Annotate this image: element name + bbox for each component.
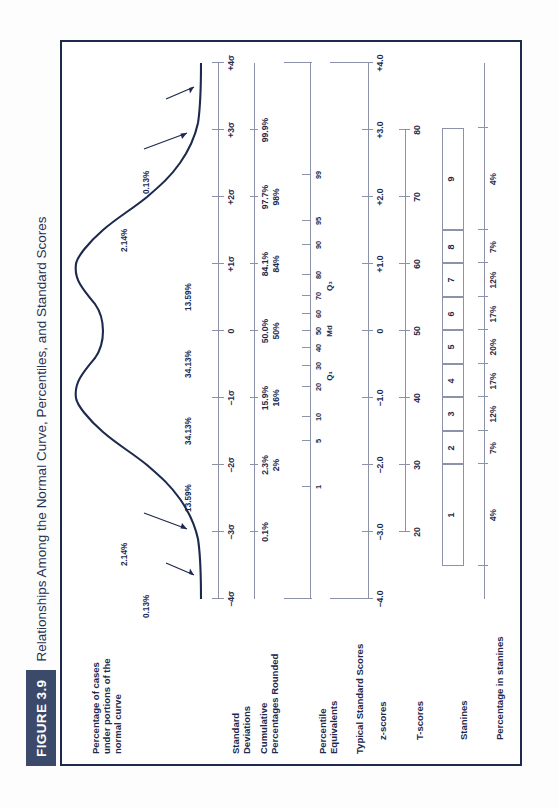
pctile-tick-5 (302, 440, 311, 441)
pctile-label-95: 95 (314, 217, 323, 225)
stanine-pct-tick-6 (478, 296, 488, 297)
row-label-line-1: Percentage of cases (90, 604, 101, 754)
percentile-axis-line (310, 63, 311, 599)
z-tick-1 (362, 263, 373, 264)
sd-tick-4 (212, 62, 224, 63)
stanine-pct-tick-2 (478, 430, 488, 431)
stanine-pct-7: 12% (488, 272, 498, 289)
z-tick-2 (362, 196, 373, 197)
stanine-pct-tick-7 (478, 262, 488, 263)
figure-number-badge: FIGURE 3.9 (26, 670, 56, 766)
stanine-pct-tick-1 (478, 463, 488, 464)
tscore-axis-line (405, 130, 406, 532)
t-tick-30 (399, 464, 410, 465)
stanine-number-6: 6 (446, 311, 456, 316)
z-tick-0 (362, 330, 373, 331)
stanine-pct-6: 17% (488, 306, 498, 323)
pctile-label-40: 40 (314, 344, 323, 352)
pctile-label-1: 1 (314, 485, 323, 489)
z-label--3: −3.0 (375, 524, 385, 541)
stanine-pct-3: 12% (488, 406, 498, 423)
pctile-label-60: 60 (314, 310, 323, 318)
sd-tick-3 (212, 129, 224, 130)
row-label-standard-deviations: Standard Deviations (230, 604, 252, 754)
row-label-typical-standard-scores: Typical Standard Scores (354, 604, 365, 754)
stanine-number-3: 3 (446, 411, 456, 416)
t-label-70: 70 (412, 192, 422, 202)
sd-label--3: −3σ (226, 524, 236, 540)
sd-tick-2 (212, 196, 224, 197)
figure-page: FIGURE 3.9 Relationships Among the Norma… (0, 0, 559, 808)
area-pct-3-to-4: 0.13% (142, 171, 151, 194)
row-label-line-1: Standard (230, 604, 241, 754)
sd-tick-0 (212, 330, 224, 331)
figure-rotated-container: FIGURE 3.9 Relationships Among the Norma… (20, 24, 540, 784)
row-label-line-2: Deviations (241, 604, 252, 754)
cum-exact-3: 99.9% (260, 118, 270, 142)
z-label--1: −1.0 (375, 390, 385, 407)
stanine-pct-9: 4% (488, 173, 498, 185)
sd-label-3: +3σ (226, 122, 236, 138)
pctile-tick-10 (302, 416, 311, 417)
row-label-z-scores: z-scores (377, 590, 388, 740)
stanine-number-7: 7 (446, 277, 456, 282)
cum-rounded--1: 16% (271, 389, 281, 406)
z-label-1: +1.0 (375, 256, 385, 273)
sd-tick--2 (212, 464, 224, 465)
zscore-left-connector (330, 598, 370, 599)
t-tick-20 (399, 531, 410, 532)
stanine-number-5: 5 (446, 344, 456, 349)
cum-exact-1: 84.1% (260, 252, 270, 276)
t-label-40: 40 (412, 393, 422, 403)
stanine-number-9: 9 (446, 176, 456, 181)
stanine-number-2: 2 (446, 445, 456, 450)
pctile-tick-50 (302, 330, 311, 331)
pctile-tick-70 (302, 295, 311, 296)
zscore-right-connector (330, 62, 370, 63)
stanine-pct-4: 17% (488, 373, 498, 390)
pctile-label-20: 20 (314, 383, 323, 391)
pctile-marker-q1: Q₁ (325, 371, 334, 381)
area-pct--3-to--2: 2.14% (120, 543, 129, 566)
pctile-label-5: 5 (314, 439, 323, 443)
pctile-label-30: 30 (314, 362, 323, 370)
row-label-stanines: Stanines (458, 590, 469, 740)
sd-label-0: 0 (226, 329, 236, 334)
cum-tick-3 (250, 129, 258, 130)
cum-exact--1: 15.9% (260, 386, 270, 410)
cum-rounded-1: 84% (271, 255, 281, 272)
t-label-50: 50 (412, 326, 422, 336)
row-label-t-scores: T-scores (414, 590, 425, 740)
cum-tick--2 (250, 464, 258, 465)
sd-label--1: −1σ (226, 390, 236, 406)
pctile-marker-q3: Q₃ (325, 281, 334, 291)
stanine-pct-2: 7% (488, 442, 498, 454)
pctile-tick-60 (302, 313, 311, 314)
cum-exact--3: 0.1% (260, 522, 270, 542)
row-label-cumulative-percentages: Cumulative Percentages Rounded (258, 604, 280, 754)
pctile-label-90: 90 (314, 241, 323, 249)
stanine-number-4: 4 (446, 378, 456, 383)
pctile-tick-40 (302, 347, 311, 348)
stanine-pct-8: 7% (488, 241, 498, 253)
t-label-80: 80 (412, 125, 422, 135)
stanine-pct-tick-5 (478, 329, 488, 330)
pctile-label-80: 80 (314, 271, 323, 279)
percentile-right-connector (284, 62, 312, 63)
stanine-pct-1: 4% (488, 509, 498, 521)
sd-tick--4 (212, 598, 224, 599)
t-tick-40 (399, 397, 410, 398)
cum-rounded-0: 50% (271, 322, 281, 339)
normal-curve-plot (74, 63, 202, 599)
area-pct-1-to-2: 13.59% (184, 283, 193, 311)
z-tick--1 (362, 397, 373, 398)
pctile-label-70: 70 (314, 292, 323, 300)
cum-rounded--2: 2% (271, 459, 281, 471)
sd-tick--1 (212, 397, 224, 398)
z-tick--2 (362, 464, 373, 465)
row-label-line-1: Cumulative (258, 604, 269, 754)
cum-tick-2 (250, 196, 258, 197)
normal-curve-svg (74, 63, 202, 599)
row-label-percentile-equivalents: Percentile Equivalents (317, 604, 339, 754)
sd-tick-1 (212, 263, 224, 264)
